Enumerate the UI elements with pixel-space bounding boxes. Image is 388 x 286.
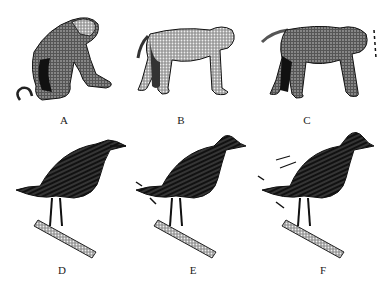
- bird-e-illustration: [136, 135, 246, 258]
- bird-d-illustration: [16, 140, 126, 258]
- arrow-icon: [136, 182, 142, 186]
- panel-label-c: C: [297, 114, 317, 126]
- panel-label-f: F: [313, 264, 333, 276]
- panel-label-a: A: [54, 114, 74, 126]
- monkey-b-illustration: [138, 27, 234, 95]
- monkey-a-illustration: [17, 18, 111, 100]
- figure-canvas: [0, 0, 388, 286]
- arrow-icon: [150, 198, 156, 204]
- arrow-icon: [258, 176, 264, 180]
- panel-label-e: E: [183, 264, 203, 276]
- monkey-c-illustration: [262, 26, 376, 98]
- motion-lines-icon: [374, 30, 376, 58]
- panel-label-d: D: [52, 264, 72, 276]
- arrow-icon: [276, 202, 284, 208]
- bird-f-illustration: [258, 132, 374, 258]
- panel-label-b: B: [171, 114, 191, 126]
